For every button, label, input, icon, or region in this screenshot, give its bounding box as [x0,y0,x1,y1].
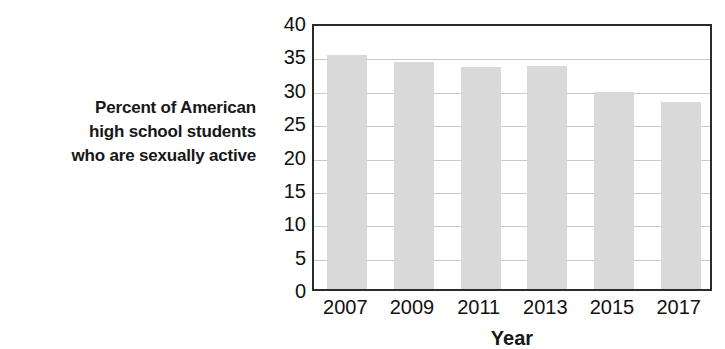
bar-2009 [394,62,434,289]
gridline-15 [314,193,710,194]
y-tick-label-15: 15 [264,181,306,201]
x-axis-tick-labels: 200720092011201320152017 [312,295,712,325]
y-tick-label-20: 20 [264,148,306,168]
x-tick-label-2009: 2009 [390,295,435,319]
gridline-5 [314,260,710,261]
bar-2011 [461,67,501,289]
gridline-20 [314,160,710,161]
gridline-35 [314,59,710,60]
x-tick-label-2007: 2007 [323,295,368,319]
bar-2007 [327,55,367,289]
x-tick-label-2013: 2013 [523,295,568,319]
y-axis-title-line-2: high school students [8,120,256,144]
y-tick-label-5: 5 [264,248,306,268]
x-tick-label-2017: 2017 [656,295,701,319]
y-tick-label-35: 35 [264,47,306,67]
bar-2015 [594,92,634,289]
y-tick-label-30: 30 [264,81,306,101]
bar-2013 [527,66,567,289]
plot-area [312,24,712,291]
x-tick-label-2011: 2011 [457,295,500,319]
y-tick-label-40: 40 [264,14,306,34]
y-axis-tick-labels: 4035302520151050 [258,0,306,344]
x-tick-label-2015: 2015 [590,295,635,319]
gridline-10 [314,226,710,227]
plot-inner [314,26,710,289]
y-axis-title-line-1: Percent of American [8,96,256,120]
x-axis-title: Year [312,326,712,349]
gridline-30 [314,93,710,94]
gridline-25 [314,126,710,127]
y-axis-title: Percent of American high school students… [8,96,256,168]
y-tick-label-10: 10 [264,214,306,234]
bar-2017 [661,102,701,289]
y-tick-label-0: 0 [264,281,306,301]
y-tick-label-25: 25 [264,114,306,134]
y-axis-title-line-3: who are sexually active [8,144,256,168]
